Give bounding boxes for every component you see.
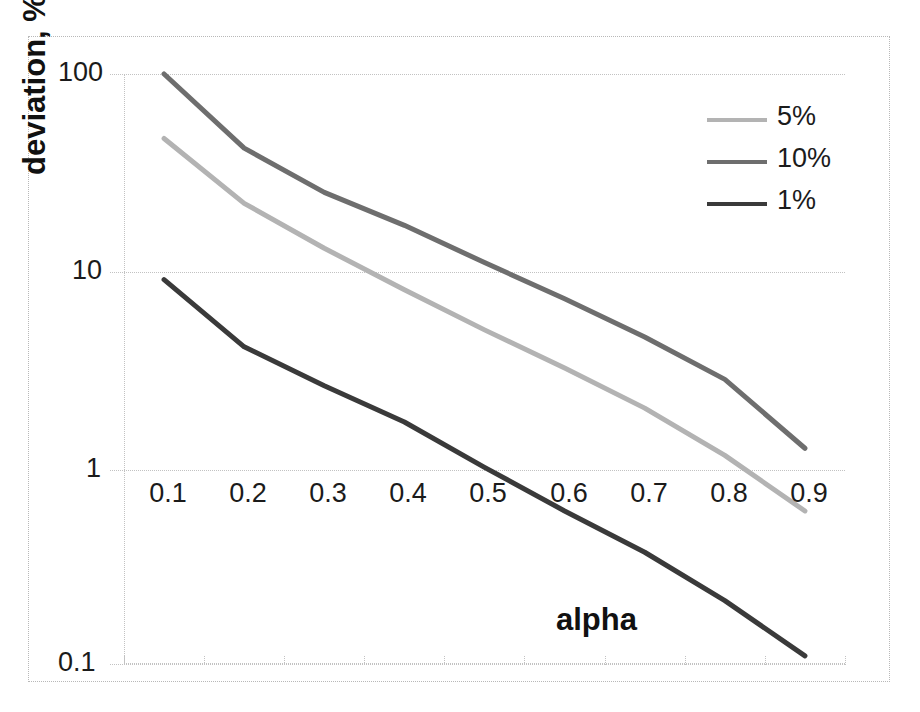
legend-label-10: 10% [777,143,831,174]
y-tick-label-10: 10 [72,255,102,286]
x-tick-9 [845,656,846,665]
x-tick-label-6: 0.7 [609,478,689,509]
x-tick-label-4: 0.5 [448,478,528,509]
legend-entry-1[interactable]: 1% [707,185,882,227]
legend-label-1: 1% [777,185,816,216]
y-axis-title: deviation, % [17,0,53,175]
series-line-1 [164,280,805,656]
x-tick-label-3: 0.4 [368,478,448,509]
legend-swatch-10 [707,160,767,164]
x-tick-label-0: 0.1 [128,478,208,509]
legend-entry-5[interactable]: 5% [707,101,882,143]
x-tick-label-5: 0.6 [529,478,609,509]
x-tick-label-8: 0.9 [769,478,849,509]
x-tick-label-2: 0.3 [288,478,368,509]
legend-swatch-5 [707,118,767,122]
x-tick-label-1: 0.2 [208,478,288,509]
gridline-01 [110,664,845,665]
y-tick-label-100: 100 [58,57,103,88]
x-tick-label-7: 0.8 [689,478,769,509]
legend-entry-10[interactable]: 10% [707,143,882,185]
y-tick-label-1: 1 [86,453,101,484]
legend-swatch-1 [707,202,767,206]
y-tick-label-01: 0.1 [58,647,96,678]
legend-label-5: 5% [777,101,816,132]
chart-figure: 100 10 1 0.1 deviation, % alpha 0.1 0.2 … [0,0,920,712]
legend: 5% 10% 1% [707,101,882,227]
